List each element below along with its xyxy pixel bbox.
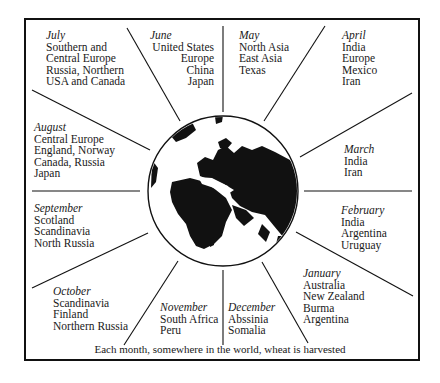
month-block-march: March India Iran	[344, 144, 374, 179]
month-block-august: August Central Europe England, Norway Ca…	[34, 122, 115, 180]
month-label: March	[344, 144, 374, 156]
month-label: September	[34, 203, 94, 215]
month-block-may: May North Asia East Asia Texas	[239, 30, 289, 76]
month-label: January	[303, 268, 365, 280]
region: Iran	[344, 167, 374, 179]
month-block-february: February India Argentina Uruguay	[341, 205, 387, 251]
month-block-october: October Scandinavia Finland Northern Rus…	[53, 286, 128, 332]
month-block-november: November South Africa Peru	[160, 302, 218, 337]
month-label: May	[239, 30, 289, 42]
month-label: August	[34, 122, 115, 134]
region: Peru	[160, 325, 218, 337]
month-label: April	[342, 30, 377, 42]
region: Somalia	[228, 325, 275, 337]
region: Argentina	[303, 314, 365, 326]
region: Japan	[150, 76, 214, 88]
region: North Russia	[34, 238, 94, 250]
region: Uruguay	[341, 240, 387, 252]
month-label: July	[46, 30, 125, 42]
region: Northern Russia	[53, 321, 128, 333]
month-label: February	[341, 205, 387, 217]
month-label: October	[53, 286, 128, 298]
month-label: November	[160, 302, 218, 314]
month-block-april: April India Europe Mexico Iran	[342, 30, 377, 88]
region: Japan	[34, 168, 115, 180]
month-block-january: January Australia New Zealand Burma Arge…	[303, 268, 365, 326]
region: Texas	[239, 65, 289, 77]
month-label: December	[228, 302, 275, 314]
globe-icon	[148, 115, 300, 266]
month-block-december: December Abssinia Somalia	[228, 302, 275, 337]
region: USA and Canada	[46, 76, 125, 88]
month-block-june: June United States Europe China Japan	[150, 30, 214, 88]
month-block-july: July Southern and Central Europe Russia,…	[46, 30, 125, 88]
diagram-caption: Each month, somewhere in the world, whea…	[0, 343, 440, 355]
month-label: June	[150, 30, 214, 42]
region: Iran	[342, 76, 377, 88]
month-block-september: September Scotland Scandinavia North Rus…	[34, 203, 94, 249]
